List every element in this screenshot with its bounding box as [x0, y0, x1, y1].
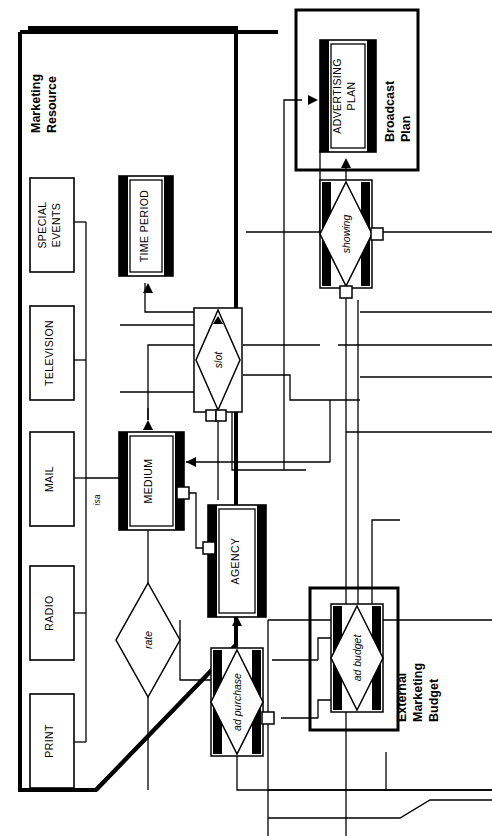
- entity-agency-label: AGENCY: [229, 538, 241, 585]
- group-external-marketing-budget-label-line3: Budget: [427, 678, 441, 722]
- entity-medium-shadow-left: [119, 432, 128, 530]
- relationship-showing-cardinality-stub-bottom: [340, 286, 352, 298]
- entity-time-period[interactable]: TIME PERIOD: [119, 176, 173, 276]
- entity-time-period-shadow-right: [164, 176, 173, 276]
- relationship-ad-purchase-label: ad purchase: [231, 673, 243, 731]
- entity-agency-cardinality-stub: [203, 542, 215, 554]
- entity-advertising-plan-shadow-right: [367, 40, 376, 152]
- edge-label-isa: isa: [92, 494, 102, 505]
- entity-radio[interactable]: RADIO: [30, 566, 74, 660]
- relationship-ad-purchase-cardinality-stub: [262, 712, 274, 724]
- entity-radio-label: RADIO: [43, 595, 55, 630]
- relationship-showing-label: showing: [340, 215, 352, 254]
- entity-special-events-label-line2: EVENTS: [50, 203, 62, 247]
- group-external-marketing-budget-label-line1: External: [395, 673, 409, 722]
- er-diagram-svg: Marketing Resource: [0, 0, 492, 836]
- entity-television-label: TELEVISION: [43, 320, 55, 386]
- entity-agency[interactable]: AGENCY: [203, 505, 266, 617]
- entity-mail[interactable]: MAIL: [30, 432, 74, 526]
- entity-mail-label: MAIL: [43, 466, 55, 492]
- entity-special-events-label-line1: SPECIAL: [36, 201, 48, 248]
- entity-advertising-plan-label-line1: ADVERTISING: [331, 58, 343, 133]
- relationship-slot-cardinality-stub-b: [216, 410, 226, 421]
- er-diagram-canvas: Marketing Resource: [0, 0, 492, 836]
- relationship-ad-budget-label: ad budget: [351, 634, 363, 682]
- entity-advertising-plan[interactable]: ADVERTISING PLAN: [320, 40, 376, 152]
- entity-advertising-plan-shadow-left: [320, 40, 329, 152]
- relationship-ad-budget[interactable]: ad budget: [331, 604, 383, 712]
- entity-medium-shadow-right: [175, 432, 184, 530]
- group-marketing-resource-label-line2: Resource: [45, 76, 59, 133]
- relationship-slot-label: slot: [212, 351, 224, 368]
- entity-advertising-plan-label-line2: PLAN: [345, 81, 357, 110]
- entity-agency-shadow-left: [208, 505, 217, 617]
- relationship-showing-cardinality-stub-right: [371, 228, 383, 240]
- group-broadcast-plan-label-line2: Plan: [399, 116, 413, 142]
- entity-time-period-shadow-left: [119, 176, 128, 276]
- group-broadcast-plan-label-line1: Broadcast: [383, 80, 397, 142]
- group-marketing-resource-label-line1: Marketing: [29, 74, 43, 133]
- entity-special-events[interactable]: SPECIAL EVENTS: [30, 178, 74, 272]
- entity-time-period-label: TIME PERIOD: [138, 190, 150, 263]
- entity-print-label: PRINT: [43, 724, 55, 758]
- entity-television[interactable]: TELEVISION: [30, 306, 74, 400]
- relationship-rate-label: rate: [142, 631, 154, 649]
- entity-medium[interactable]: MEDIUM: [119, 432, 189, 530]
- entity-medium-cardinality-stub: [177, 487, 189, 499]
- entity-medium-label: MEDIUM: [142, 459, 154, 504]
- entity-agency-shadow-right: [257, 505, 266, 617]
- relationship-slot[interactable]: slot: [194, 308, 242, 421]
- group-external-marketing-budget-label-line2: Marketing: [411, 663, 425, 722]
- relationship-slot-cardinality-stub-a: [206, 410, 216, 421]
- entity-print[interactable]: PRINT: [30, 694, 74, 788]
